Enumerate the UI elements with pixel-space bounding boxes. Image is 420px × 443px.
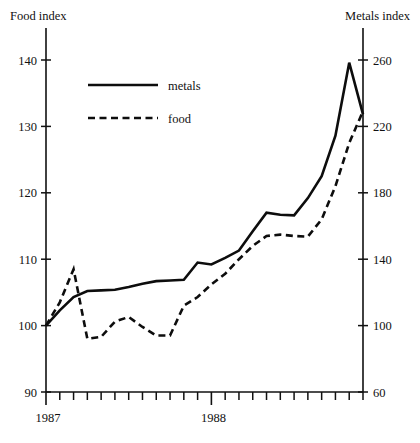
x-axis-tick-label: 1988 xyxy=(201,411,226,425)
right-axis-title: Metals index xyxy=(345,9,411,23)
x-axis-tick-label: 1987 xyxy=(36,411,61,425)
y-left-tick-label: 100 xyxy=(18,319,37,333)
y-right-tick-label: 260 xyxy=(373,54,392,68)
legend-label-food: food xyxy=(168,112,192,126)
y-right-tick-label: 140 xyxy=(373,253,392,267)
left-axis-title: Food index xyxy=(10,9,67,23)
y-right-tick-label: 180 xyxy=(373,186,392,200)
y-axis-right: 60100140180220260 xyxy=(358,28,392,400)
legend-label-metals: metals xyxy=(168,79,201,93)
chart-container: Food index Metals index 9010011012013014… xyxy=(0,0,420,443)
y-left-tick-label: 120 xyxy=(18,186,37,200)
y-right-tick-label: 100 xyxy=(373,319,392,333)
y-left-tick-label: 140 xyxy=(18,54,37,68)
y-right-tick-label: 220 xyxy=(373,120,392,134)
y-left-tick-label: 110 xyxy=(19,253,37,267)
y-right-tick-label: 60 xyxy=(373,386,386,400)
y-left-tick-label: 90 xyxy=(25,386,38,400)
series-lines xyxy=(46,63,363,339)
y-axis-left: 90100110120130140 xyxy=(18,28,51,400)
chart-legend: metalsfood xyxy=(88,79,201,126)
x-axis: 19871988 xyxy=(36,392,364,425)
y-left-tick-label: 130 xyxy=(18,120,37,134)
series-line-food xyxy=(46,111,363,339)
chart-svg: Food index Metals index 9010011012013014… xyxy=(0,0,420,443)
series-line-metals xyxy=(46,63,363,326)
